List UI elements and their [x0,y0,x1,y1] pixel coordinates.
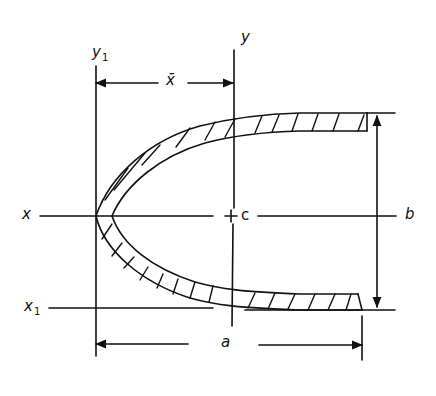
section-bottom-end [358,294,362,310]
parabolic-section-diagram [0,0,436,396]
a-label: a [221,335,230,350]
b-label: b [405,207,415,222]
x-label: x [22,207,31,222]
x1-label: x1 [24,299,40,314]
centroid-label: c [241,208,249,223]
y-axis-lower [232,224,233,326]
y-label: y [241,30,250,45]
xbar-label: x̄ [166,73,175,88]
y1-label: y1 [92,45,108,60]
bottom-hatching [102,224,351,310]
